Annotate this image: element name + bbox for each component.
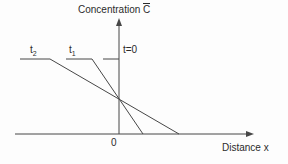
t1-profile (66, 59, 143, 134)
curve-label-t1: t1 (69, 44, 76, 57)
origin-label: 0 (111, 137, 117, 148)
curve-label-t0: t=0 (123, 44, 137, 55)
concentration-distance-diagram: Concentration C t2 t1 t=0 0 Distance x (0, 0, 288, 164)
x-axis-title: Distance x (222, 142, 269, 153)
t2-subscript: 2 (33, 50, 37, 57)
t1-subscript: 1 (72, 50, 76, 57)
y-axis-title-text: Concentration (78, 4, 140, 15)
diagram-canvas (0, 0, 288, 164)
y-axis-title: Concentration C (78, 3, 150, 15)
mean-concentration-symbol: C (143, 3, 150, 15)
curve-label-t2: t2 (30, 44, 37, 57)
